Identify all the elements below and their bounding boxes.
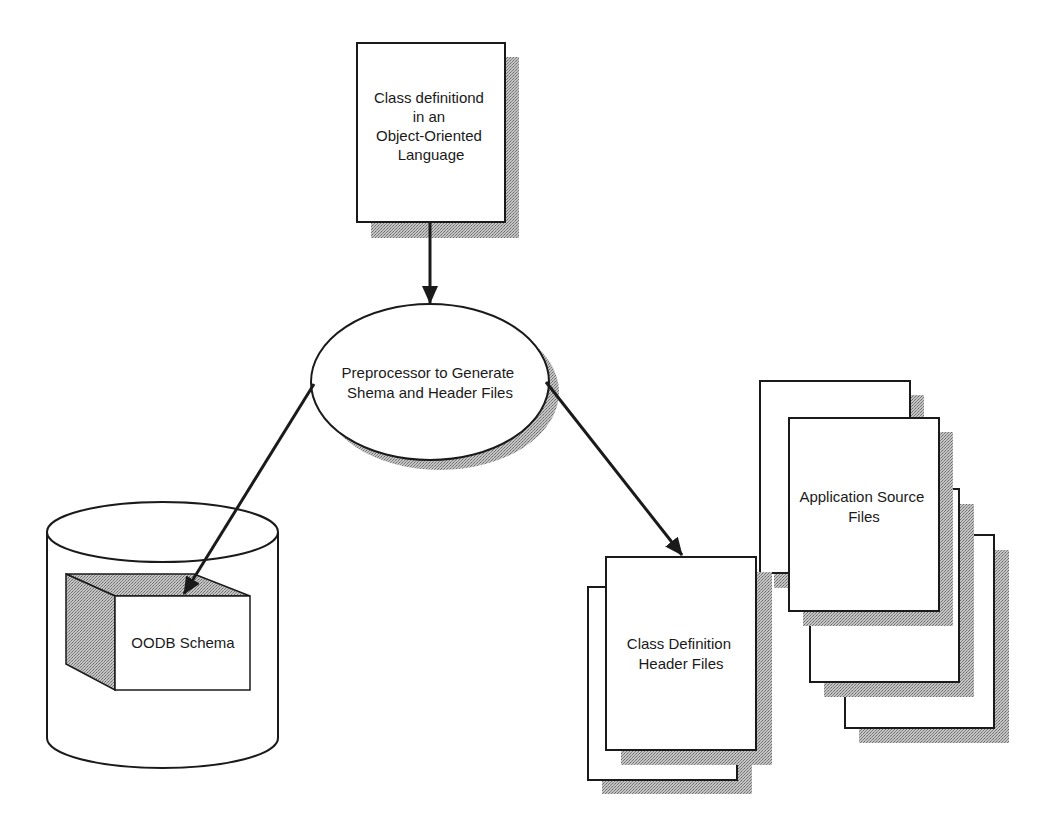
oodb-preprocessor-diagram: Class definitiond in an Object-Oriented …	[0, 0, 1045, 827]
oodb-schema-cube: OODB Schema	[66, 574, 250, 690]
database-cylinder: OODB Schema	[47, 502, 278, 768]
preprocessor-process: Preprocessor to Generate Shema and Heade…	[311, 304, 559, 470]
class-definition-header-files-stack: Class Definition Header Files	[588, 557, 772, 794]
page	[606, 557, 756, 750]
application-source-files-stack: Application Source Files	[760, 381, 1009, 743]
arrow-preprocessor-to-headers	[546, 382, 682, 555]
class-definitions-document: Class definitiond in an Object-Oriented …	[357, 43, 519, 238]
oodb-schema-label: OODB Schema	[131, 634, 235, 651]
cylinder-top	[47, 502, 278, 562]
ellipse-shape	[311, 304, 549, 460]
